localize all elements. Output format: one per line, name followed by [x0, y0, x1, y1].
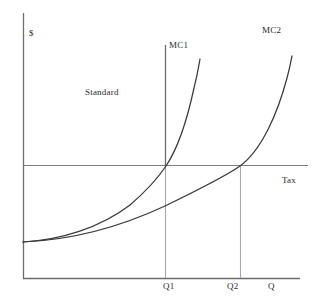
standard-label: Standard: [85, 88, 119, 97]
x-tick-label-q2: Q2: [227, 282, 238, 291]
x-axis-label: Q: [268, 282, 275, 291]
mc2-label: MC2: [262, 26, 281, 35]
mc1-label: MC1: [169, 41, 188, 50]
mc2-curve: [23, 56, 292, 242]
y-axis-label: $: [29, 29, 34, 38]
chart-canvas: [0, 0, 320, 308]
economics-chart: $ Standard MC1 MC2 Tax Q1 Q2 Q: [0, 0, 320, 308]
x-tick-label-q1: Q1: [163, 282, 174, 291]
tax-label: Tax: [282, 176, 296, 185]
